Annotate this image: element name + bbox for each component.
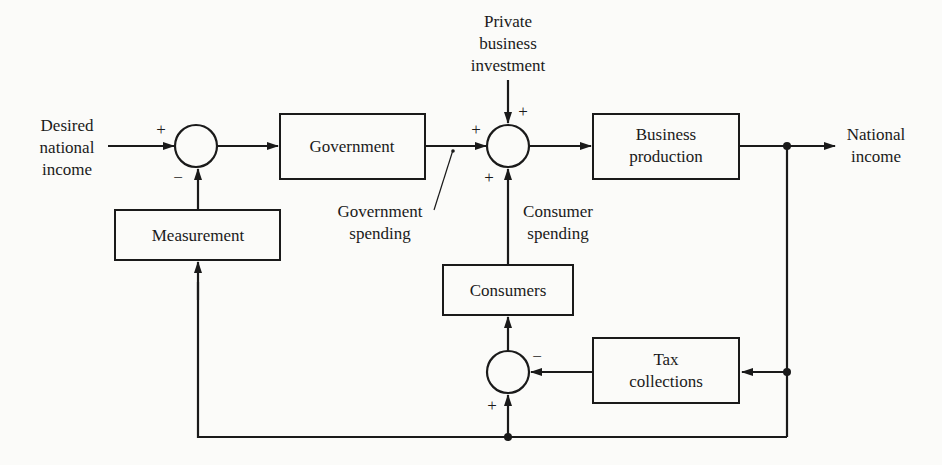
sum2-plus-bottom-sign: + <box>484 168 494 187</box>
sum2-plus-left-sign: + <box>471 120 481 139</box>
economic-feedback-diagram: Desired national income + − Government +… <box>0 0 942 465</box>
svg-text:Measurement: Measurement <box>152 226 245 245</box>
tax-collections-block: Tax collections <box>593 338 739 403</box>
svg-text:production: production <box>629 147 703 166</box>
svg-text:Government: Government <box>338 202 423 221</box>
svg-text:Tax: Tax <box>653 350 679 369</box>
svg-text:Desired: Desired <box>41 116 94 135</box>
private-business-investment-label: Private business investment <box>471 12 546 75</box>
sum3-plus-sign: + <box>487 396 497 415</box>
svg-text:income: income <box>851 147 901 166</box>
government-spending-label: Government spending <box>338 202 423 243</box>
svg-text:national: national <box>40 138 95 157</box>
sum1-minus-sign: − <box>173 168 183 187</box>
svg-text:investment: investment <box>471 56 546 75</box>
summing-junction-1 <box>175 125 217 167</box>
desired-national-income-label: Desired national income <box>40 116 95 179</box>
sum3-minus-sign: − <box>532 347 542 366</box>
government-spending-leader <box>434 150 453 210</box>
government-block: Government <box>280 114 425 179</box>
summing-junction-2 <box>487 125 529 167</box>
consumers-block: Consumers <box>443 265 573 315</box>
business-production-block: Business production <box>593 114 739 179</box>
svg-text:collections: collections <box>629 372 703 391</box>
svg-text:Private: Private <box>484 12 532 31</box>
sum1-plus-sign: + <box>156 120 166 139</box>
svg-text:National: National <box>847 125 906 144</box>
consumer-spending-label: Consumer spending <box>523 202 593 243</box>
svg-text:business: business <box>479 34 537 53</box>
svg-text:Business: Business <box>636 125 696 144</box>
svg-text:spending: spending <box>527 224 589 243</box>
summing-junction-3 <box>487 351 529 393</box>
sum2-plus-top-sign: + <box>518 102 528 121</box>
svg-text:Consumers: Consumers <box>470 281 547 300</box>
svg-text:Consumer: Consumer <box>523 202 593 221</box>
svg-text:Government: Government <box>310 137 395 156</box>
svg-text:spending: spending <box>349 224 411 243</box>
svg-text:income: income <box>42 160 92 179</box>
national-income-label: National income <box>847 125 906 166</box>
measurement-block: Measurement <box>115 210 280 260</box>
